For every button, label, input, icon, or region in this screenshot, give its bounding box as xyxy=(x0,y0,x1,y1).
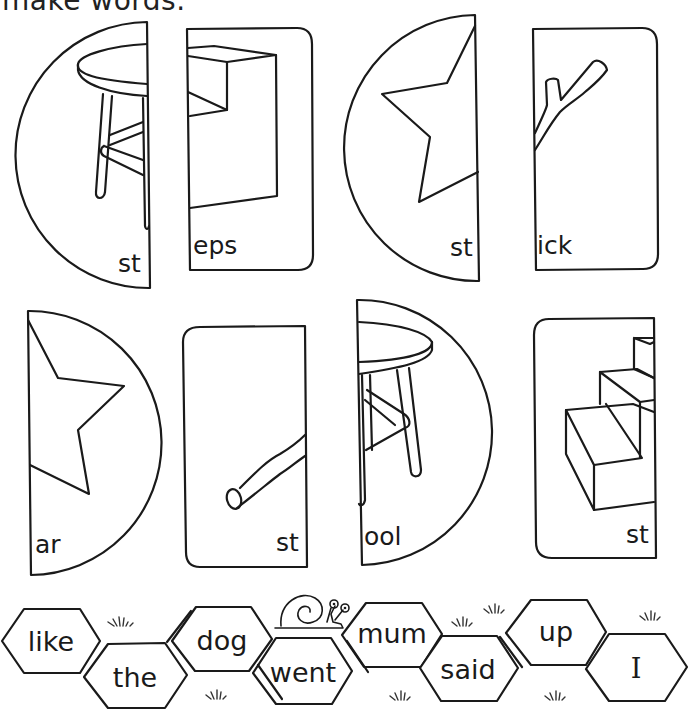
card-star-right-half[interactable]: ar xyxy=(28,311,162,575)
grass-tuft-icon xyxy=(108,617,133,626)
word-hexagon-the[interactable]: the xyxy=(84,643,187,708)
word-hexagon-went[interactable]: went xyxy=(253,638,352,704)
hexagon-word: I xyxy=(631,653,642,684)
grass-tuft-icon xyxy=(206,690,226,699)
card-label: ick xyxy=(537,231,573,260)
card-stool-left-half[interactable]: st xyxy=(15,22,150,288)
grass-tuft-icon xyxy=(545,691,565,700)
hexagon-word: the xyxy=(113,662,157,693)
card-stick-left-half[interactable]: ick xyxy=(533,28,658,270)
card-steps-left-half[interactable]: eps xyxy=(187,28,313,270)
card-label: eps xyxy=(193,231,237,260)
grass-tuft-icon xyxy=(640,611,660,620)
word-hexagon-up[interactable]: up xyxy=(500,600,606,667)
card-label: ool xyxy=(364,522,402,551)
word-hexagon-like[interactable]: like xyxy=(2,609,100,673)
card-stool-right-half[interactable]: ool xyxy=(357,300,492,565)
grass-tuft-icon xyxy=(484,604,504,613)
word-hexagon-dog[interactable]: dog xyxy=(167,607,272,671)
hexagon-word: up xyxy=(539,616,573,647)
grass-tuft-icon xyxy=(452,617,472,626)
hexagon-word: said xyxy=(440,654,495,685)
card-label: st xyxy=(276,528,299,557)
grass-tuft-icon xyxy=(390,691,410,700)
card-label: ar xyxy=(35,530,61,559)
card-stick-right-half[interactable]: st xyxy=(183,326,307,567)
hexagon-word: went xyxy=(270,657,336,688)
snail-icon xyxy=(275,596,349,628)
word-hexagon-said[interactable]: said xyxy=(420,636,518,701)
card-label: st xyxy=(450,233,473,262)
card-label: st xyxy=(118,249,141,278)
card-star-left-half[interactable]: st xyxy=(344,15,479,281)
hexagon-word: like xyxy=(28,626,74,657)
card-label: st xyxy=(626,520,649,549)
hexagon-word: dog xyxy=(197,625,248,656)
hexagon-word: mum xyxy=(357,618,427,649)
word-hexagon-I[interactable]: I xyxy=(586,634,687,701)
card-steps-right-half[interactable]: st xyxy=(534,318,656,558)
